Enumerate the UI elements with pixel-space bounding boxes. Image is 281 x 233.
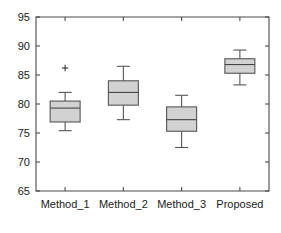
boxplot-figure: 65707580859095 Method_1Method_2Method_3P… bbox=[0, 0, 281, 233]
box-iqr-rect bbox=[108, 81, 138, 105]
x-tick-label: Method_2 bbox=[99, 198, 148, 210]
y-tick-label: 70 bbox=[18, 156, 30, 168]
y-tick-label: 75 bbox=[18, 127, 30, 139]
y-tick-label: 85 bbox=[18, 69, 30, 81]
x-tick-label: Proposed bbox=[216, 198, 263, 210]
y-tick-label: 65 bbox=[18, 185, 30, 197]
box-iqr-rect bbox=[225, 59, 255, 73]
y-tick-label: 90 bbox=[18, 40, 30, 52]
boxplot-canvas: 65707580859095 Method_1Method_2Method_3P… bbox=[0, 0, 281, 233]
y-tick-label: 80 bbox=[18, 98, 30, 110]
x-tick-label: Method_3 bbox=[157, 198, 206, 210]
box-iqr-rect bbox=[50, 101, 80, 122]
y-tick-label: 95 bbox=[18, 11, 30, 23]
box-iqr-rect bbox=[167, 107, 197, 131]
x-tick-label: Method_1 bbox=[41, 198, 90, 210]
